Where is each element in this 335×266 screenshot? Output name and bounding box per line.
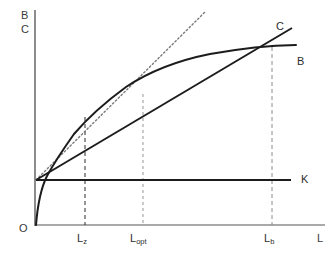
y-axis-label-c: C	[21, 23, 29, 35]
series-curve-b	[36, 45, 296, 225]
tick-label-lz: Lz	[77, 232, 87, 246]
origin-label: O	[19, 222, 28, 234]
series-label-b: B	[297, 55, 304, 67]
x-axis-label: L	[317, 232, 323, 244]
tick-label-lopt-sub: opt	[136, 237, 146, 246]
tangent-ray-dotted	[36, 12, 205, 180]
y-axis-label-b: B	[21, 9, 28, 21]
chart-figure: B C O L C B K Lz Lopt Lb	[0, 0, 335, 266]
series-line-c	[36, 28, 292, 180]
chart-plot-area	[0, 0, 335, 266]
series-label-k: K	[301, 173, 308, 185]
tick-label-lz-sub: z	[83, 237, 87, 246]
tick-label-lopt: Lopt	[130, 232, 147, 246]
tick-label-lb: Lb	[264, 232, 274, 246]
series-label-c: C	[276, 20, 284, 32]
tick-label-lb-sub: b	[270, 237, 274, 246]
